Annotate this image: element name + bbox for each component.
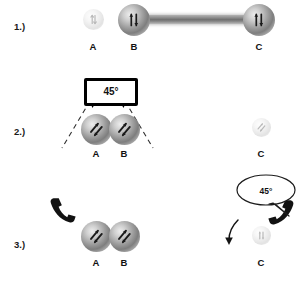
node-b-row1[interactable] [118, 4, 150, 36]
speech-bubble-value: 45° [251, 186, 281, 196]
spin-arrows-tilted-icon [252, 118, 271, 137]
node-label-a-row3: A [89, 257, 103, 268]
node-label-b-row1: B [127, 41, 141, 52]
spin-arrows-tilted-icon [109, 221, 140, 252]
spin-arrows-tilted-icon [81, 221, 112, 252]
node-a-row3[interactable] [81, 221, 112, 252]
spin-arrows-vertical-icon [83, 9, 104, 30]
row-number-2: 2.) [14, 126, 25, 137]
node-c-row2[interactable] [252, 118, 271, 137]
spin-arrows-tilted-icon [109, 114, 140, 145]
row-number-1: 1.) [14, 21, 25, 32]
node-a-row1[interactable] [83, 9, 104, 30]
node-label-b-row3: B [117, 257, 131, 268]
spin-arrows-vertical-icon [252, 226, 271, 245]
node-label-c-row2: C [254, 148, 268, 159]
node-b-row3[interactable] [109, 221, 140, 252]
node-label-c-row3: C [254, 257, 268, 268]
angle-measurement-value: 45° [103, 87, 118, 97]
diagram-canvas: 1.) [0, 0, 303, 286]
row-number-3: 3.) [14, 239, 25, 250]
node-b-row2[interactable] [109, 114, 140, 145]
node-label-a-row1: A [86, 41, 100, 52]
angle-measurement-box[interactable]: 45° [84, 78, 138, 106]
spin-arrows-vertical-icon [243, 4, 275, 36]
bond-rod-b-c [134, 15, 258, 24]
node-c-row1[interactable] [243, 4, 275, 36]
node-c-row3[interactable] [252, 226, 271, 245]
spin-arrows-tilted-icon [81, 114, 112, 145]
node-a-row2[interactable] [81, 114, 112, 145]
node-label-b-row2: B [117, 148, 131, 159]
node-label-c-row1: C [252, 41, 266, 52]
node-label-a-row2: A [89, 148, 103, 159]
spin-arrows-vertical-icon [118, 4, 150, 36]
